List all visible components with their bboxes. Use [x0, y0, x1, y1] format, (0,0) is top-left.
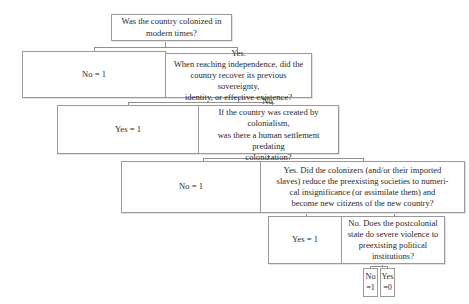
- level2-no-question-box: No. If the country was created by coloni…: [198, 105, 339, 154]
- level1-no-outcome-box: No = 1: [22, 51, 166, 98]
- leaf-no-outcome-text: No =1: [365, 272, 375, 293]
- level2-yes-outcome-text: Yes = 1: [115, 124, 141, 135]
- leaf-yes-outcome-text: Yes =0: [382, 272, 394, 293]
- root-question-box: Was the country colonized in modern time…: [111, 14, 232, 41]
- level4-no-question-text: No. Does the postcolonial state do sever…: [348, 218, 439, 263]
- level4-no-question-box: No. Does the postcolonial state do sever…: [341, 216, 445, 264]
- level3-yes-question-text: Yes. Did the colonizers (and/or their im…: [277, 165, 449, 210]
- level3-no-outcome-text: No = 1: [179, 181, 203, 192]
- root-question-text: Was the country colonized in modern time…: [121, 16, 221, 38]
- connector-l3-bar: [306, 213, 394, 214]
- level1-yes-question-box: Yes. When reaching independence, did the…: [165, 53, 312, 98]
- level4-yes-outcome-box: Yes = 1: [268, 216, 342, 264]
- level3-no-outcome-box: No = 1: [121, 161, 261, 213]
- level4-yes-outcome-text: Yes = 1: [292, 234, 318, 245]
- leaf-no-outcome-box: No =1: [363, 268, 378, 297]
- connector-l4-bar: [370, 266, 387, 267]
- leaf-yes-outcome-box: Yes =0: [380, 268, 395, 297]
- level3-yes-question-box: Yes. Did the colonizers (and/or their im…: [260, 161, 465, 213]
- level2-no-question-text: No. If the country was created by coloni…: [202, 96, 335, 163]
- level2-yes-outcome-box: Yes = 1: [57, 105, 199, 154]
- level1-no-outcome-text: No = 1: [82, 69, 106, 80]
